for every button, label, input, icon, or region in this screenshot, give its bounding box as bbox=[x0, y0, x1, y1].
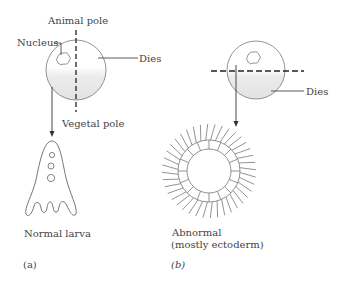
label-normal-larva: Normal larva bbox=[24, 228, 91, 239]
panel-label-a: (a) bbox=[23, 259, 37, 270]
nucleus-a bbox=[57, 53, 71, 65]
label-animal-pole: Animal pole bbox=[48, 15, 108, 26]
abnormal-embryo bbox=[162, 124, 256, 218]
label-nucleus: Nucleus bbox=[17, 37, 58, 48]
panel-label-b: (b) bbox=[171, 259, 185, 270]
normal-larva bbox=[26, 141, 77, 216]
label-mostly-ectoderm: (mostly ectoderm) bbox=[171, 239, 264, 250]
label-vegetal-pole: Vegetal pole bbox=[62, 118, 124, 129]
label-dies-a: Dies bbox=[139, 53, 161, 64]
embryo-b bbox=[211, 41, 304, 127]
label-abnormal: Abnormal bbox=[172, 227, 222, 238]
nucleus-b bbox=[247, 52, 261, 64]
label-dies-b: Dies bbox=[306, 86, 328, 97]
